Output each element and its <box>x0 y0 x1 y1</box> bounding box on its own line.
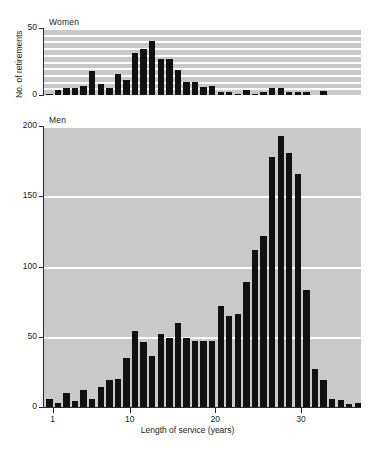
bar <box>286 153 292 407</box>
y-tick-mark <box>39 267 44 268</box>
bar <box>295 92 301 95</box>
y-tick-mark <box>39 337 44 338</box>
bar <box>269 157 275 407</box>
y-tick-mark <box>39 28 44 29</box>
women-bars <box>44 28 361 95</box>
x-tick-mark <box>130 408 131 413</box>
bar <box>192 341 198 407</box>
panel-title-women: Women <box>49 17 79 27</box>
bar <box>175 323 181 407</box>
bar <box>183 338 189 407</box>
x-tick-mark <box>301 408 302 413</box>
bar <box>312 369 318 407</box>
y-tick-label: 0 <box>4 401 37 411</box>
bar <box>320 91 326 95</box>
x-axis-label: Length of service (years) <box>0 425 375 435</box>
men-bars <box>44 126 361 407</box>
bar <box>278 136 284 407</box>
bar <box>63 88 69 95</box>
y-tick-label: 50 <box>4 331 37 341</box>
bar <box>158 334 164 407</box>
bar <box>320 380 326 407</box>
x-tick-mark <box>215 408 216 413</box>
bar <box>89 71 95 95</box>
bar <box>55 90 61 95</box>
men-plot-area <box>44 126 361 407</box>
bar <box>260 236 266 407</box>
bar <box>209 86 215 95</box>
bar <box>115 74 121 95</box>
x-tick-label: 1 <box>33 414 73 424</box>
women-panel <box>44 28 361 95</box>
bar <box>303 92 309 95</box>
bar <box>183 82 189 95</box>
bar <box>226 92 232 95</box>
bar <box>106 88 112 95</box>
bar <box>192 82 198 95</box>
bar <box>209 341 215 407</box>
bar <box>80 390 86 407</box>
y-tick-label: 0 <box>4 89 37 99</box>
bar <box>252 94 258 95</box>
bar <box>158 59 164 95</box>
y-axis-label: No. of retirements <box>14 30 24 98</box>
bar <box>98 84 104 95</box>
bar <box>106 380 112 407</box>
bar <box>235 94 241 95</box>
bar <box>243 90 249 95</box>
bar <box>278 88 284 95</box>
bar <box>243 282 249 407</box>
bar <box>46 94 52 95</box>
bar <box>46 399 52 407</box>
bar <box>295 174 301 407</box>
bar <box>72 88 78 95</box>
bar <box>132 53 138 95</box>
y-tick-label: 150 <box>4 190 37 200</box>
bar <box>226 316 232 407</box>
women-plot-area <box>44 28 361 95</box>
bar <box>140 342 146 407</box>
bar <box>200 87 206 95</box>
x-tick-label: 20 <box>195 414 235 424</box>
bar <box>115 379 121 407</box>
bar <box>286 92 292 95</box>
retirements-histogram-figure: No. of retirements Women 050 Men 0501001… <box>0 0 375 450</box>
bar <box>303 290 309 407</box>
bar <box>166 59 172 95</box>
bar <box>252 250 258 407</box>
y-tick-label: 200 <box>4 120 37 130</box>
y-tick-mark <box>39 95 44 96</box>
bar <box>132 331 138 407</box>
panel-title-men: Men <box>49 115 66 125</box>
x-tick-mark <box>53 408 54 413</box>
bar <box>269 88 275 95</box>
bar <box>235 314 241 407</box>
bar <box>140 49 146 95</box>
bar <box>218 92 224 95</box>
bar <box>260 92 266 95</box>
bar <box>98 387 104 407</box>
bar <box>80 86 86 95</box>
y-tick-mark <box>39 126 44 127</box>
bar <box>63 393 69 407</box>
x-tick-label: 10 <box>110 414 150 424</box>
bar <box>338 400 344 407</box>
bar <box>149 356 155 407</box>
y-tick-mark <box>39 196 44 197</box>
x-tick-label: 30 <box>281 414 321 424</box>
x-axis-spine <box>43 407 361 408</box>
bar <box>123 358 129 407</box>
bar <box>166 338 172 407</box>
bar <box>149 41 155 95</box>
y-axis-spine <box>43 28 44 95</box>
men-panel <box>44 126 361 407</box>
bar <box>218 306 224 407</box>
bar <box>200 341 206 407</box>
bar <box>123 80 129 95</box>
bar <box>175 70 181 95</box>
y-tick-label: 100 <box>4 261 37 271</box>
y-tick-label: 50 <box>4 22 37 32</box>
bar <box>329 399 335 407</box>
bar <box>89 399 95 407</box>
